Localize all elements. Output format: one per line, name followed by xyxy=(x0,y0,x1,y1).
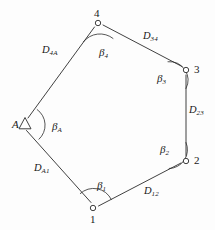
distance-base-D12: D xyxy=(144,185,152,196)
angle-label-betaA: βA xyxy=(52,121,62,134)
distance-sub-D23: 23 xyxy=(197,109,204,117)
distance-label-D4A: D4A xyxy=(42,45,58,57)
angle-sub-beta3: 3 xyxy=(162,78,166,86)
distance-sub-DA1: A1 xyxy=(42,167,50,175)
distance-sub-D34: 34 xyxy=(151,35,158,43)
distance-sub-D12: 12 xyxy=(152,190,159,198)
distance-label-D23: D23 xyxy=(189,105,204,117)
distance-base-D4A: D xyxy=(42,44,50,55)
distance-base-D34: D xyxy=(143,30,151,41)
angle-sub-beta2: 2 xyxy=(165,149,169,157)
distance-base-D23: D xyxy=(189,104,197,115)
angle-label-beta4: β4 xyxy=(99,47,108,60)
angle-sub-betaA: A xyxy=(57,126,61,134)
angle-arc-1 xyxy=(80,188,111,199)
station-marker-2 xyxy=(183,158,188,163)
control-point-marker-A xyxy=(19,118,31,129)
station-marker-4 xyxy=(95,20,100,25)
angle-label-beta1: β1 xyxy=(97,180,106,193)
distance-sub-D4A: 4A xyxy=(50,49,58,57)
station-label-A: A xyxy=(12,119,19,130)
traverse-diagram: A 1 2 3 4 DA1 D12 D23 D34 D4A βA β1 β2 β… xyxy=(0,0,215,230)
side-12 xyxy=(99,163,182,206)
angle-arc-3 xyxy=(168,62,188,89)
angle-arc-A xyxy=(37,110,45,140)
station-label-2: 2 xyxy=(194,155,200,166)
station-label-1: 1 xyxy=(90,214,96,225)
traverse-figure-svg xyxy=(0,0,215,230)
angle-label-beta3: β3 xyxy=(157,73,166,86)
angle-arc-4 xyxy=(84,34,114,42)
angle-arcs xyxy=(37,34,188,200)
station-marker-1 xyxy=(90,205,95,210)
distance-label-D34: D34 xyxy=(143,31,158,43)
angle-sub-beta1: 1 xyxy=(102,185,106,193)
station-label-3: 3 xyxy=(194,64,200,75)
distance-base-DA1: D xyxy=(34,162,42,173)
angle-sub-beta4: 4 xyxy=(104,52,108,60)
angle-label-beta2: β2 xyxy=(160,144,169,157)
station-label-4: 4 xyxy=(94,8,100,19)
station-marker-3 xyxy=(183,67,188,72)
distance-label-D12: D12 xyxy=(144,186,159,198)
distance-label-DA1: DA1 xyxy=(34,163,50,175)
